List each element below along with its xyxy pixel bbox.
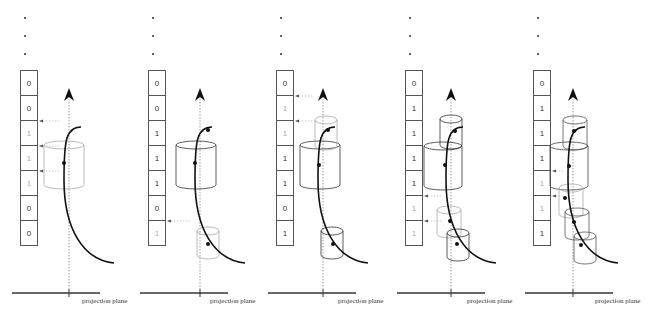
projection-plane-label: projection plane (338, 297, 383, 305)
sample-point (317, 163, 321, 167)
surface-curve (446, 127, 496, 263)
diagram-figure: 0011100 projection plane 0011101 project… (0, 0, 651, 320)
arrow-tip-icon (552, 170, 556, 173)
sample-point (206, 242, 210, 246)
sample-point (572, 220, 576, 224)
arrow-tip-icon (39, 145, 43, 148)
sample-point (455, 242, 459, 246)
projection-sketch (0, 0, 130, 320)
surface-curve (64, 127, 114, 263)
cylinder-shape (424, 142, 462, 190)
arrow-tip-icon (295, 120, 299, 123)
sample-point (563, 196, 567, 200)
arrow-tip-icon (39, 170, 43, 173)
cylinder-shape (563, 116, 587, 150)
sample-point (579, 243, 583, 247)
arrow-tip-icon (167, 220, 171, 223)
projection-sketch (513, 0, 643, 320)
sample-point (62, 161, 66, 165)
projection-sketch (128, 0, 258, 320)
arrow-tip-icon (424, 220, 428, 223)
sample-point (193, 161, 197, 165)
projection-plane-label: projection plane (467, 297, 512, 305)
cylinder-shape (574, 232, 596, 264)
arrow-tip-icon (39, 120, 43, 123)
arrow-tip-icon (295, 95, 299, 98)
diagram-panel-4: 0111111 projection plane (385, 0, 515, 320)
projection-sketch (385, 0, 515, 320)
cylinder-shape (565, 208, 589, 240)
sample-point (572, 129, 576, 133)
sample-point (206, 128, 210, 132)
diagram-panel-5: 0111111 projection plane (513, 0, 643, 320)
surface-curve (195, 127, 245, 263)
diagram-panel-2: 0011101 projection plane (128, 0, 258, 320)
surface-curve (568, 127, 618, 263)
sample-point (448, 219, 452, 223)
projection-sketch (256, 0, 386, 320)
arrow-tip-icon (552, 195, 556, 198)
sample-point (331, 242, 335, 246)
arrow-tip-icon (424, 195, 428, 198)
sample-point (453, 129, 457, 133)
sample-point (443, 163, 447, 167)
projection-plane-label: projection plane (82, 297, 127, 305)
cylinder-shape (315, 116, 337, 150)
sample-point (326, 128, 330, 132)
projection-plane-label: projection plane (595, 297, 640, 305)
projection-plane-label: projection plane (210, 297, 255, 305)
diagram-panel-3: 0111101 projection plane (256, 0, 386, 320)
sample-point (567, 164, 571, 168)
diagram-panel-1: 0011100 projection plane (0, 0, 130, 320)
